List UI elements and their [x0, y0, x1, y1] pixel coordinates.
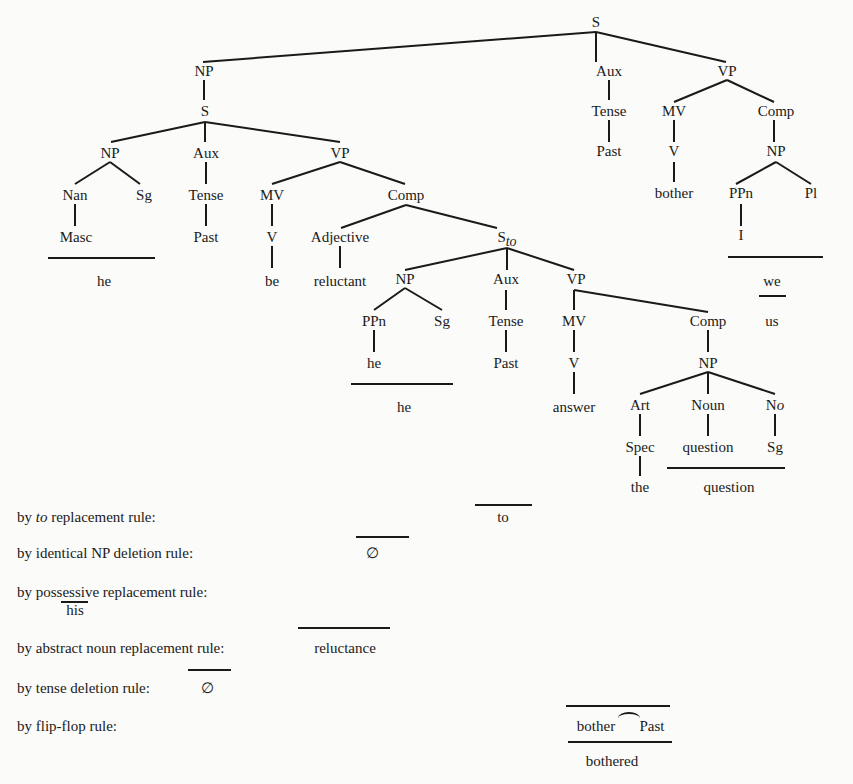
node-embedded-mv: MV	[260, 186, 284, 204]
juncture-arc-icon	[618, 712, 640, 724]
result-bar-flip-flop-top	[566, 705, 670, 707]
node-embedded-aux: Aux	[193, 144, 219, 162]
node-sto-past: Past	[493, 354, 518, 372]
node-sto-he: he	[397, 398, 411, 416]
node-sto-sg: Sg	[434, 312, 450, 330]
rule-possessive-replacement: by possessive replacement rule:	[17, 583, 207, 601]
node-sto-vp: VP	[566, 270, 585, 288]
s-to-subscript: to	[506, 234, 517, 249]
rule-result-bothered: bothered	[586, 752, 638, 770]
node-sto-aux: Aux	[493, 270, 519, 288]
node-matrix-past: Past	[596, 142, 621, 160]
node-embedded-vp: VP	[330, 144, 349, 162]
rule-identical-np-deletion: by identical NP deletion rule:	[17, 544, 193, 562]
node-subject-np: NP	[194, 62, 213, 80]
rule-result-null-2: ∅	[201, 679, 214, 697]
node-sto-np: NP	[395, 270, 414, 288]
node-embedded-tense: Tense	[189, 186, 224, 204]
result-bar-sto-he	[351, 383, 453, 385]
node-sto-tense: Tense	[489, 312, 524, 330]
node-embedded-past: Past	[193, 228, 218, 246]
node-sto-ppn: PPn	[362, 312, 386, 330]
node-sto-spec: Spec	[625, 438, 654, 456]
node-sto-v: V	[569, 354, 580, 372]
node-sto-the: the	[631, 478, 649, 496]
node-sto-he-lex: he	[367, 354, 381, 372]
node-matrix-v: V	[669, 142, 680, 160]
rule-emph: to	[36, 509, 48, 525]
node-matrix-aux: Aux	[596, 62, 622, 80]
node-embedded-nan: Nan	[63, 186, 88, 204]
result-bar-he	[48, 257, 155, 259]
result-bar-us	[759, 295, 786, 297]
result-bar-reluctance	[298, 627, 390, 629]
node-sto-mv: MV	[562, 312, 586, 330]
node-matrix-pl: Pl	[805, 184, 818, 202]
result-bar-np-deletion	[356, 536, 409, 538]
node-matrix-tense: Tense	[592, 102, 627, 120]
rule-result-null-1: ∅	[366, 544, 379, 562]
rule-tense-deletion: by tense deletion rule:	[17, 679, 150, 697]
rule-result-his: his	[66, 601, 84, 619]
node-s-to: Sto	[497, 228, 516, 247]
node-matrix-ppn: PPn	[729, 184, 753, 202]
node-embedded-s: S	[201, 102, 209, 120]
rule-text: replacement rule:	[47, 509, 155, 525]
node-sto-art: Art	[630, 396, 650, 414]
node-embedded-reluctant: reluctant	[314, 272, 366, 290]
rule-result-to: to	[497, 508, 509, 526]
rule-result-reluctance: reluctance	[314, 639, 376, 657]
node-matrix-pronoun-i: I	[739, 226, 744, 244]
rule-result-past: Past	[639, 717, 664, 735]
no-italic-o: o	[777, 397, 785, 413]
node-matrix-comp: Comp	[758, 102, 795, 120]
result-bar-to	[475, 504, 532, 506]
node-matrix-vp: VP	[717, 62, 736, 80]
node-sto-comp: Comp	[690, 312, 727, 330]
rule-flip-flop: by flip-flop rule:	[17, 717, 117, 735]
node-embedded-he: he	[97, 272, 111, 290]
node-matrix-bother: bother	[655, 184, 693, 202]
result-bar-tense-deletion	[188, 669, 231, 671]
result-bar-we	[728, 256, 823, 258]
node-embedded-masc: Masc	[60, 228, 93, 246]
node-embedded-be: be	[265, 272, 279, 290]
result-bar-question	[667, 467, 785, 469]
node-sto-no: No	[766, 396, 784, 414]
node-matrix-us: us	[765, 312, 778, 330]
node-embedded-comp: Comp	[388, 186, 425, 204]
no-label: N	[766, 397, 777, 413]
node-sto-question-lex: question	[683, 438, 734, 456]
node-embedded-np: NP	[100, 144, 119, 162]
node-root-s: S	[592, 13, 600, 31]
node-embedded-sg: Sg	[136, 186, 152, 204]
rule-abstract-noun-replacement: by abstract noun replacement rule:	[17, 639, 224, 657]
rule-text: by	[17, 509, 36, 525]
node-sto-sg2: Sg	[767, 438, 783, 456]
node-sto-noun: Noun	[691, 396, 724, 414]
node-matrix-comp-np: NP	[766, 142, 785, 160]
node-sto-answer: answer	[553, 398, 595, 416]
rule-to-replacement: by to replacement rule:	[17, 508, 156, 526]
result-bar-flip-flop-bottom	[568, 741, 672, 743]
rule-result-bother: bother	[577, 717, 615, 735]
node-matrix-mv: MV	[662, 102, 686, 120]
tree-branches	[0, 0, 853, 784]
node-matrix-we: we	[763, 272, 781, 290]
node-embedded-v: V	[267, 228, 278, 246]
node-sto-question: question	[704, 478, 755, 496]
node-sto-comp-np: NP	[698, 354, 717, 372]
syntax-tree-diagram: S Aux Tense Past VP MV V bother Comp NP …	[0, 0, 853, 784]
node-embedded-adjective: Adjective	[311, 228, 369, 246]
